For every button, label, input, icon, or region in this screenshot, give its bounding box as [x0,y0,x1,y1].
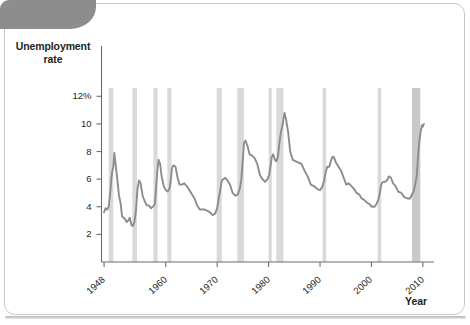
y-axis-tick-label: 10 [58,118,92,129]
unemployment-rate-line [104,113,424,226]
y-axis-tick-label: 4 [58,201,92,212]
y-axis-tick-label: 12% [58,90,92,101]
recession-band [276,88,283,262]
plot-svg [0,0,470,325]
figure-container: Unemployment rate Year 12%108642 1948196… [0,0,470,325]
recession-band [237,88,244,262]
y-axis-tick-label: 8 [58,146,92,157]
y-axis-tick-label: 6 [58,173,92,184]
recession-bands-group [109,88,421,262]
recession-band [378,88,382,262]
recession-band [132,88,137,262]
unemployment-rate-chart: Unemployment rate Year 12%108642 1948196… [0,0,470,325]
recession-band [217,88,222,262]
y-axis-tick-label: 2 [58,228,92,239]
axes-group [97,46,435,267]
